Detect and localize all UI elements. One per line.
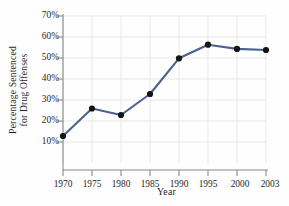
x-axis-title-label: Year [157, 186, 176, 197]
chart-figure: Percentage Sentenced for Drug Offenses 7… [0, 0, 289, 206]
x-axis-tick-labels: 1970 1975 1980 1985 1990 1995 2000 2003 [0, 0, 289, 206]
x-axis-title: Year [0, 186, 289, 197]
